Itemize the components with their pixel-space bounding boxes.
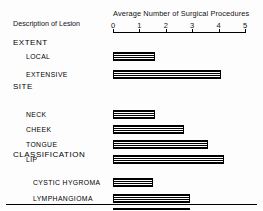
bar — [113, 178, 153, 187]
bar — [113, 52, 155, 61]
row-label: TONGUE — [26, 141, 57, 148]
x-axis-line — [113, 32, 246, 33]
group-heading-classification: CLASSIFICATION — [13, 150, 85, 159]
bar — [113, 194, 190, 203]
row-label: EXTENSIVE — [26, 71, 68, 78]
axis-title: Average Number of Surgical Procedures — [113, 9, 263, 18]
bar — [113, 208, 190, 210]
group-heading-extent: EXTENT — [13, 38, 48, 47]
x-axis-tick-mark — [219, 29, 220, 33]
row-label: CHEEK — [26, 126, 51, 133]
row-label: NECK — [26, 111, 46, 118]
bar — [113, 110, 155, 119]
x-axis-tick-mark — [245, 29, 246, 33]
bar — [113, 125, 184, 134]
row-label: LYMPHANGIOMA — [33, 195, 93, 202]
row-label: LOCAL — [26, 53, 50, 60]
row-label: COMBINED — [33, 209, 73, 211]
lymphangioma-surgical-procedures-chart: Average Number of Surgical Procedures De… — [0, 0, 263, 210]
description-of-lesion-heading: Description of Lesion — [13, 19, 80, 28]
row-label: CYSTIC HYGROMA — [33, 179, 101, 186]
x-axis-tick-mark — [166, 29, 167, 33]
bar — [113, 155, 224, 164]
x-axis-tick-mark — [192, 29, 193, 33]
x-axis-tick-mark — [139, 29, 140, 33]
group-heading-site: SITE — [13, 82, 33, 91]
bottom-rule — [6, 204, 257, 205]
bar — [113, 70, 221, 79]
x-axis-tick-mark — [113, 29, 114, 33]
bar — [113, 140, 208, 149]
